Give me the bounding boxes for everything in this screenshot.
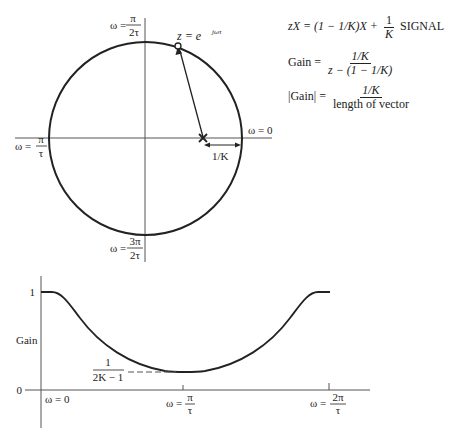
gain-curve [41,292,330,372]
x-tick-2pi-prefix: ω = [310,397,326,409]
unit-circle-diagram: 1/K ω = 0 z = e jωτ ω = π 2τ ω = π τ ω =… [15,12,273,262]
y-axis-label: Gain [16,334,38,346]
distance-label: 1/K [212,150,229,162]
eq1-rhs: SIGNAL [400,19,444,33]
arrow-right-icon [235,143,241,148]
vector-line [180,51,203,137]
y-tick-one: 1 [30,286,36,298]
gain-plot: 1 0 Gain 1 2K − 1 ω = 0 ω = π τ ω = 2π τ [16,276,370,428]
x-tick-2pi-num: 2π [332,391,344,403]
y-tick-zero: 0 [17,384,23,396]
eq1-lhs: zX = (1 − 1/K)X + [288,19,378,33]
label-omega-zero: ω = 0 [248,124,273,136]
eq2-num: 1/K [350,50,371,64]
min-label-den: 2K − 1 [93,371,124,383]
x-tick-pi-prefix: ω = [166,397,182,409]
label-top-num: π [130,12,136,24]
equation-recurrence: zX = (1 − 1/K)X + 1 K SIGNAL [288,14,444,41]
arrow-left-icon [204,143,210,148]
label-bottom-prefix: ω = [110,242,126,254]
eq1-den: K [383,28,395,41]
label-top-prefix: ω = [110,19,126,31]
label-bottom-num: 3π [129,235,141,247]
eq3-den: length of vector [331,98,411,111]
equation-gain-magnitude: |Gain| = 1/K length of vector [288,84,413,111]
eq1-num: 1 [384,14,394,28]
equation-gain: Gain = 1/K z − (1 − 1/K) [288,50,396,77]
point-on-circle [175,43,181,49]
eq3-lhs: |Gain| = [288,89,326,103]
label-left-num: π [38,133,44,145]
label-bottom-den: 2τ [130,249,141,261]
x-tick-pi-num: π [187,391,193,403]
eq2-lhs: Gain = [288,55,321,69]
eq2-fraction: 1/K z − (1 − 1/K) [326,50,394,77]
eq2-den: z − (1 − 1/K) [326,64,394,77]
label-left-prefix: ω = [15,140,31,152]
min-label-num: 1 [105,356,111,368]
x-tick-zero-label: ω = 0 [45,393,70,405]
point-label: z = e [176,29,202,43]
point-label-exponent: jωτ [211,28,222,36]
eq3-fraction: 1/K length of vector [331,84,411,111]
x-tick-2pi-den: τ [336,404,341,416]
label-top-den: 2τ [129,26,140,38]
x-tick-pi-den: τ [188,404,193,416]
eq1-fraction: 1 K [383,14,395,41]
label-left-den: τ [39,147,44,159]
eq3-num: 1/K [360,84,381,98]
